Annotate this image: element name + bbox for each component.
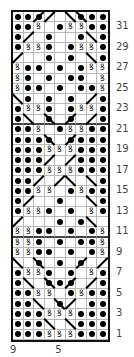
purl-dot-icon [45,104,56,114]
purl-dot-icon [34,145,45,155]
row-number-label: 27 [116,62,129,72]
blank-cell [55,94,66,104]
purl-dot-icon [97,43,108,53]
purl-dot-icon [87,227,98,237]
chart-row [13,176,108,186]
blank-cell [66,197,77,207]
purl-dot-icon [87,22,98,32]
chart-row [13,43,108,53]
purl-dot-icon [45,207,56,217]
purl-dot-icon [87,320,98,330]
purl-dot-icon [13,299,24,309]
purl-dot-icon [24,309,35,319]
purl-dot-icon [76,63,87,73]
twist-stitch-icon [24,268,35,278]
chart-row [13,268,108,278]
purl-dot-icon [13,166,24,176]
purl-dot-icon [97,135,108,145]
twist-stitch-icon [34,186,45,196]
twist-stitch-icon [66,22,77,32]
blank-cell [34,74,45,84]
purl-dot-icon [97,22,108,32]
purl-dot-icon [66,94,77,104]
chart-row [13,289,108,299]
purl-dot-icon [97,330,108,340]
purl-dot-icon [66,227,77,237]
blank-cell [55,248,66,258]
purl-dot-icon [24,125,35,135]
blank-cell [55,268,66,278]
purl-dot-icon [97,186,108,196]
left-decrease-icon [87,176,98,186]
row-number-label: 29 [116,42,129,52]
blank-cell [66,63,77,73]
blank-cell [76,227,87,237]
twist-stitch-icon [76,125,87,135]
blank-cell [34,53,45,63]
purl-dot-icon [66,186,77,196]
purl-dot-icon [13,145,24,155]
twist-stitch-icon [55,330,66,340]
chart-row [13,186,108,196]
purl-dot-icon [76,84,87,94]
chart-row [13,12,108,22]
purl-dot-icon [24,166,35,176]
purl-dot-icon [97,115,108,125]
purl-dot-icon [97,299,108,309]
blank-cell [55,12,66,22]
row-number-label: 7 [116,267,122,277]
purl-dot-icon [24,299,35,309]
purl-dot-icon [97,145,108,155]
chart-row [13,279,108,289]
blank-cell [55,104,66,114]
purl-dot-icon [45,268,56,278]
blank-cell [34,217,45,227]
left-decrease-icon [24,115,35,125]
row-number-label: 1 [116,329,122,339]
twist-stitch-icon [24,207,35,217]
purl-dot-icon [13,330,24,340]
right-decrease-icon [87,279,98,289]
purl-dot-icon [76,217,87,227]
purl-dot-icon [76,166,87,176]
twist-stitch-icon [76,43,87,53]
twist-stitch-icon [76,289,87,299]
left-decrease-icon [66,176,77,186]
blank-cell [24,53,35,63]
purl-dot-icon [45,94,56,104]
blank-cell [76,268,87,278]
blank-cell [66,238,77,248]
twist-stitch-icon [76,104,87,114]
twist-stitch-icon [34,22,45,32]
purl-dot-icon [45,248,56,258]
purl-dot-icon [97,104,108,114]
purl-dot-icon [13,12,24,22]
row-number-label: 5 [116,288,122,298]
purl-dot-icon [97,320,108,330]
purl-dot-icon [24,84,35,94]
purl-dot-icon [34,320,45,330]
twist-stitch-icon [66,330,77,340]
purl-dot-icon [55,217,66,227]
chart-row [13,84,108,94]
purl-dot-icon [55,125,66,135]
purl-dot-icon [87,330,98,340]
row-number-label: 19 [116,144,129,154]
purl-dot-icon [76,156,87,166]
twist-stitch-icon [45,330,56,340]
twist-stitch-icon [66,166,77,176]
left-decrease-icon [34,299,45,309]
purl-dot-icon [76,145,87,155]
right-decrease-dot-icon [66,279,77,289]
purl-dot-icon [87,289,98,299]
purl-dot-icon [34,63,45,73]
cropped-title-text: · · · · · · · · · [14,0,124,2]
left-decrease-dot-icon [45,115,56,125]
purl-dot-icon [24,135,35,145]
purl-dot-icon [24,145,35,155]
purl-dot-icon [97,197,108,207]
purl-dot-icon [34,135,45,145]
purl-dot-icon [76,330,87,340]
purl-dot-icon [87,238,98,248]
purl-dot-icon [13,176,24,186]
